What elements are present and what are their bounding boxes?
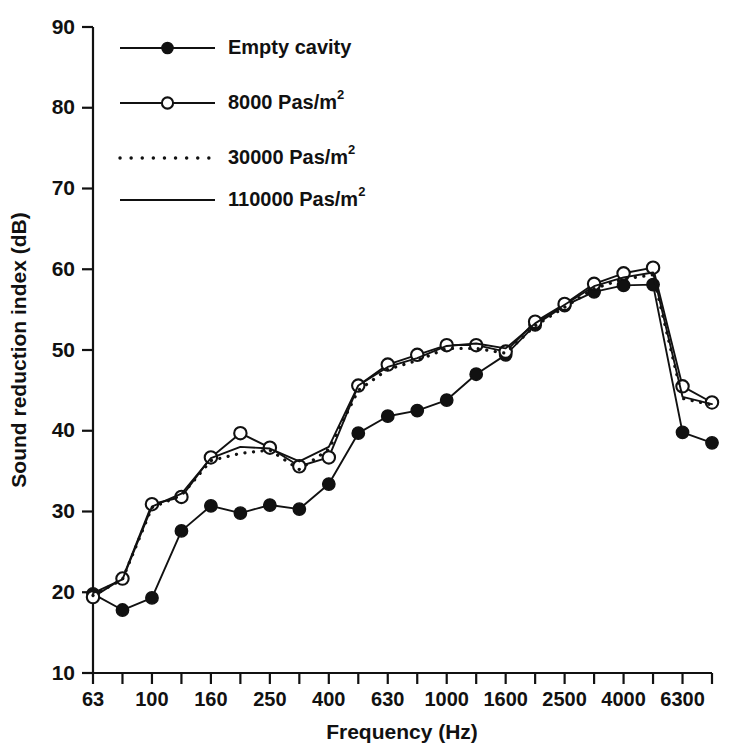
y-tick-label: 90 — [52, 15, 75, 38]
axis-frame — [93, 27, 712, 673]
x-tick-label: 1000 — [424, 688, 469, 710]
x-tick-label: 100 — [135, 688, 168, 710]
legend-marker-open — [162, 97, 173, 108]
data-point — [234, 427, 246, 439]
x-tick-label: 6300 — [660, 688, 705, 710]
legend-entry: Empty cavity — [120, 36, 352, 58]
y-axis-title: Sound reduction index (dB) — [7, 212, 30, 487]
data-point — [441, 394, 453, 406]
legend-label: Empty cavity — [228, 36, 352, 58]
legend-label: 30000 Pas/m2 — [228, 142, 355, 168]
data-point — [352, 427, 364, 439]
legend-entry: 8000 Pas/m2 — [120, 87, 344, 113]
legend-entry: 30000 Pas/m2 — [120, 142, 355, 168]
y-tick-label: 60 — [52, 257, 75, 280]
x-tick-label: 250 — [253, 688, 286, 710]
data-point — [676, 426, 688, 438]
data-point — [382, 410, 394, 422]
data-series-group — [87, 261, 718, 616]
legend-label-superscript: 2 — [358, 184, 365, 199]
data-point — [205, 500, 217, 512]
legend-entry: 110000 Pas/m2 — [120, 184, 365, 210]
x-tick-label: 160 — [194, 688, 227, 710]
x-tick-label: 63 — [82, 688, 104, 710]
x-tick-label: 4000 — [601, 688, 646, 710]
legend-label: 8000 Pas/m2 — [228, 87, 344, 113]
y-tick-label: 50 — [52, 338, 75, 361]
x-axis-ticks — [93, 673, 712, 684]
data-point — [323, 451, 335, 463]
data-point — [706, 437, 718, 449]
y-tick-label: 20 — [52, 580, 75, 603]
x-tick-label: 400 — [312, 688, 345, 710]
legend-label-superscript: 2 — [348, 142, 355, 157]
y-tick-label: 40 — [52, 418, 75, 441]
y-axis-ticks — [82, 27, 93, 673]
data-point — [116, 604, 128, 616]
y-tick-label: 10 — [52, 661, 75, 684]
data-point — [293, 503, 305, 515]
sound-reduction-index-chart: 102030405060708090 631001602504006301000… — [0, 0, 729, 755]
x-tick-label: 1600 — [483, 688, 528, 710]
data-point — [264, 499, 276, 511]
series-line — [93, 275, 712, 596]
x-axis-title: Frequency (Hz) — [326, 720, 478, 743]
data-point — [234, 507, 246, 519]
series-line — [93, 272, 712, 593]
y-tick-label: 80 — [52, 95, 75, 118]
data-point — [146, 592, 158, 604]
legend-label: 110000 Pas/m2 — [228, 184, 365, 210]
y-axis-tick-labels: 102030405060708090 — [52, 15, 75, 684]
data-point — [175, 525, 187, 537]
legend-marker-filled — [162, 42, 173, 53]
data-point — [470, 368, 482, 380]
x-tick-label: 2500 — [542, 688, 587, 710]
data-point — [411, 404, 423, 416]
x-tick-label: 630 — [371, 688, 404, 710]
series-line — [93, 285, 712, 610]
data-point — [323, 478, 335, 490]
x-axis-tick-labels: 6310016025040063010001600250040006300 — [82, 688, 705, 710]
y-tick-label: 70 — [52, 176, 75, 199]
chart-canvas: 102030405060708090 631001602504006301000… — [0, 0, 729, 755]
legend: Empty cavity8000 Pas/m230000 Pas/m211000… — [120, 36, 365, 210]
y-tick-label: 30 — [52, 499, 75, 522]
legend-label-superscript: 2 — [337, 87, 344, 102]
series-line — [93, 268, 712, 597]
